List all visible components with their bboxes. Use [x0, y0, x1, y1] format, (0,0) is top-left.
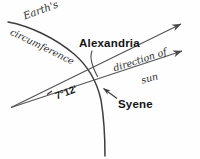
alexandria-leader-line — [91, 51, 98, 77]
eratosthenes-diagram: Earth's circumference Alexandria Syene d… — [0, 0, 200, 159]
syene-leader-arrow — [104, 89, 118, 99]
alexandria-label: Alexandria — [79, 38, 140, 50]
diagram-vector-layer — [0, 0, 200, 159]
syene-label: Syene — [118, 99, 153, 111]
